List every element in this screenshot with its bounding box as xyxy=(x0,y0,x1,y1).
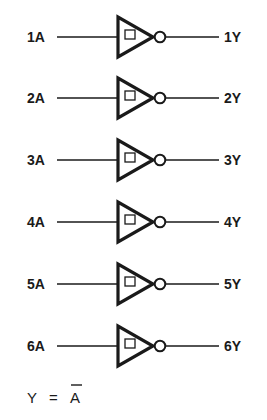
inverter-gate-3: 3A3Y xyxy=(27,140,242,180)
logic-diagram: 1A1Y2A2Y3A3Y4A4Y5A5Y6A6YY=A xyxy=(0,0,267,420)
input-label: 2A xyxy=(27,90,45,106)
inverter-gate-6: 6A6Y xyxy=(27,326,242,366)
equation-rhs: A xyxy=(70,389,80,406)
inverter-gate-4: 4A4Y xyxy=(27,202,242,242)
inversion-bubble-icon xyxy=(155,155,166,166)
logic-equation: Y=A xyxy=(27,385,82,406)
input-label: 3A xyxy=(27,152,45,168)
hysteresis-icon xyxy=(125,277,135,286)
output-label: 2Y xyxy=(224,90,242,106)
inversion-bubble-icon xyxy=(155,279,166,290)
inversion-bubble-icon xyxy=(155,93,166,104)
inverter-gate-1: 1A1Y xyxy=(27,17,242,57)
input-label: 4A xyxy=(27,214,45,230)
inversion-bubble-icon xyxy=(155,341,166,352)
input-label: 1A xyxy=(27,29,45,45)
input-label: 6A xyxy=(27,338,45,354)
inversion-bubble-icon xyxy=(155,217,166,228)
hysteresis-icon xyxy=(125,215,135,224)
inverter-gate-2: 2A2Y xyxy=(27,78,242,118)
output-label: 3Y xyxy=(224,152,242,168)
hysteresis-icon xyxy=(125,153,135,162)
output-label: 1Y xyxy=(224,29,242,45)
hysteresis-icon xyxy=(125,91,135,100)
hysteresis-icon xyxy=(125,339,135,348)
hysteresis-icon xyxy=(125,30,135,39)
inverter-gate-5: 5A5Y xyxy=(27,264,242,304)
equation-lhs: Y xyxy=(27,389,37,406)
output-label: 6Y xyxy=(224,338,242,354)
inversion-bubble-icon xyxy=(155,32,166,43)
output-label: 4Y xyxy=(224,214,242,230)
input-label: 5A xyxy=(27,276,45,292)
equation-operator: = xyxy=(49,389,58,406)
output-label: 5Y xyxy=(224,276,242,292)
